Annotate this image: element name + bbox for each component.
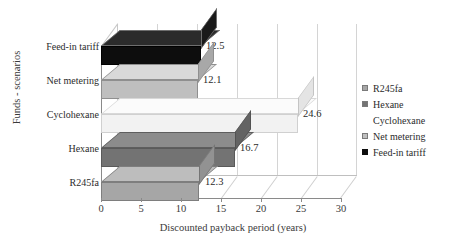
category-label-hexane: Hexane: [0, 143, 99, 154]
category-label-r245fa: R245fa: [0, 177, 99, 188]
value-label-cyclohexane: 24.6: [303, 108, 321, 119]
legend-item-r245fa[interactable]: R245fa: [362, 80, 426, 96]
value-label-net-metering: 12.1: [203, 74, 221, 85]
depth-line-25: [301, 176, 318, 199]
value-label-r245fa: 12.3: [205, 176, 223, 187]
x-tick-label-25: 25: [286, 203, 316, 214]
legend-swatch-icon: [362, 85, 368, 91]
bar-front-face: [101, 182, 199, 201]
x-tick-20: [261, 198, 262, 202]
legend-swatch-icon: [362, 133, 368, 139]
chart-legend: R245fa Hexane Cyclohexane Net metering F…: [362, 80, 426, 160]
legend-label: Cyclohexane: [373, 115, 425, 126]
x-tick-25: [301, 198, 302, 202]
category-label-net-metering: Net metering: [0, 75, 99, 86]
category-label-cyclohexane: Cyclohexane: [0, 109, 99, 120]
x-axis-title: Discounted payback period (years): [88, 222, 378, 233]
gridline-25: [317, 24, 318, 176]
value-label-hexane: 16.7: [240, 142, 258, 153]
bar-front-face: [101, 80, 198, 99]
bar-front-face: [101, 114, 298, 133]
legend-swatch-icon: [362, 117, 368, 123]
depth-line-20: [261, 176, 278, 199]
x-tick-label-10: 10: [166, 203, 196, 214]
x-tick-label-5: 5: [126, 203, 156, 214]
x-tick-label-20: 20: [246, 203, 276, 214]
x-tick-30: [341, 198, 342, 202]
x-tick-label-15: 15: [206, 203, 236, 214]
bar-front-face: [101, 46, 201, 65]
legend-label: Hexane: [373, 99, 404, 110]
legend-item-feed-in-tariff[interactable]: Feed-in tariff: [362, 144, 426, 160]
legend-label: Feed-in tariff: [373, 147, 426, 158]
x-tick-15: [221, 198, 222, 202]
legend-item-net-metering[interactable]: Net metering: [362, 128, 426, 144]
x-tick-label-0: 0: [86, 203, 116, 214]
legend-swatch-icon: [362, 149, 368, 155]
category-label-feed-in-tariff: Feed-in tariff: [0, 41, 99, 52]
depth-line-15: [221, 176, 238, 199]
x-tick-label-30: 30: [326, 203, 356, 214]
legend-label: Net metering: [373, 131, 425, 142]
x-tick-5: [141, 198, 142, 202]
depth-line-30: [340, 176, 357, 199]
bar-top-face: [101, 132, 254, 148]
gridline-30: [356, 24, 357, 176]
legend-swatch-icon: [362, 101, 368, 107]
bar-top-face: [101, 98, 317, 114]
legend-item-hexane[interactable]: Hexane: [362, 96, 426, 112]
legend-label: R245fa: [373, 83, 402, 94]
x-tick-10: [181, 198, 182, 202]
x-tick-0: [101, 198, 102, 202]
legend-item-cyclohexane[interactable]: Cyclohexane: [362, 112, 426, 128]
bar-chart: Funds - scenarios: [0, 0, 461, 242]
